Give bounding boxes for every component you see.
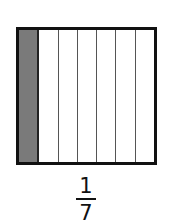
denominator: 7 <box>70 202 102 221</box>
fraction-square <box>16 27 157 165</box>
shaded-part <box>19 30 39 162</box>
unshaded-part <box>39 30 58 162</box>
unshaded-part <box>59 30 78 162</box>
fraction-bar <box>76 198 96 200</box>
unshaded-part <box>116 30 135 162</box>
fraction-label: 1 7 <box>70 175 102 221</box>
unshaded-part <box>136 30 154 162</box>
unshaded-part <box>97 30 116 162</box>
numerator: 1 <box>70 175 102 197</box>
unshaded-part <box>78 30 97 162</box>
